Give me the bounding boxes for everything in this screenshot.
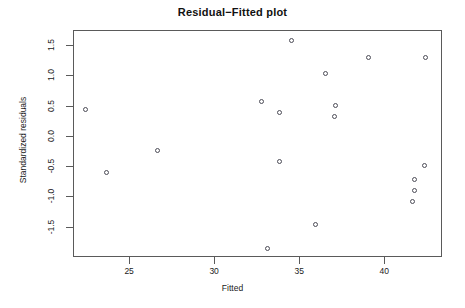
- chart-title: Residual−Fitted plot: [0, 6, 465, 18]
- x-axis-tick-label: 30: [199, 266, 229, 276]
- x-axis-tick-label: 35: [284, 266, 314, 276]
- scatter-point: [333, 103, 338, 108]
- scatter-point: [423, 55, 428, 60]
- x-axis-tick-label: 25: [114, 266, 144, 276]
- x-axis-tick-mark: [299, 257, 300, 264]
- plot-area: [73, 30, 442, 257]
- y-axis-tick-mark: [66, 227, 73, 228]
- y-axis-tick-label: -0.5: [45, 151, 57, 181]
- y-axis-label: Standardized residuals: [18, 75, 28, 205]
- scatter-point: [155, 148, 160, 153]
- scatter-point: [289, 38, 294, 43]
- y-axis-tick-mark: [66, 136, 73, 137]
- x-axis-label: Fitted: [0, 283, 465, 293]
- y-axis-tick-label: 1.0: [45, 60, 57, 90]
- y-axis-tick-mark: [66, 45, 73, 46]
- scatter-point: [265, 246, 270, 251]
- scatter-point: [422, 163, 427, 168]
- y-axis-tick-label: 0.5: [45, 91, 57, 121]
- scatter-point: [410, 199, 415, 204]
- y-axis-tick-label: -1.0: [45, 181, 57, 211]
- scatter-point: [412, 188, 417, 193]
- scatter-point: [323, 71, 328, 76]
- y-axis-tick-mark: [66, 166, 73, 167]
- chart-figure: Residual−Fitted plot Standardized residu…: [0, 0, 465, 308]
- x-axis-tick-mark: [384, 257, 385, 264]
- scatter-point: [366, 55, 371, 60]
- y-axis-tick-label: -1.5: [45, 212, 57, 242]
- y-axis-tick-label: 0.0: [45, 121, 57, 151]
- scatter-point: [259, 99, 264, 104]
- scatter-point: [313, 222, 318, 227]
- y-axis-tick-mark: [66, 196, 73, 197]
- y-axis-tick-mark: [66, 106, 73, 107]
- scatter-point: [332, 114, 337, 119]
- scatter-point: [277, 159, 282, 164]
- x-axis-tick-mark: [129, 257, 130, 264]
- scatter-point: [277, 110, 282, 115]
- y-axis-tick-label: 1.5: [45, 30, 57, 60]
- y-axis-tick-mark: [66, 75, 73, 76]
- scatter-point: [83, 107, 88, 112]
- scatter-point: [104, 170, 109, 175]
- scatter-point: [412, 177, 417, 182]
- x-axis-tick-label: 40: [369, 266, 399, 276]
- x-axis-tick-mark: [214, 257, 215, 264]
